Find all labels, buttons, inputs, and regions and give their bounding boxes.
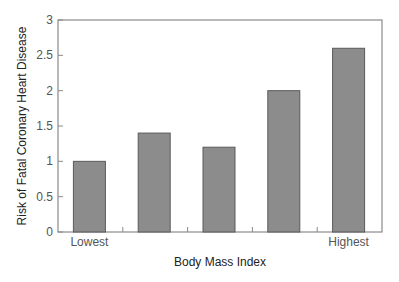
bar <box>138 133 170 232</box>
bar <box>268 91 300 232</box>
bar <box>203 147 235 232</box>
y-tick-label: 2 <box>46 84 53 98</box>
x-category-label: Highest <box>328 235 369 249</box>
y-axis-title: Risk of Fatal Coronary Heart Disease <box>15 26 29 225</box>
bar-chart: 00.511.522.53 LowestHighest Risk of Fata… <box>0 0 399 282</box>
bar <box>73 161 105 232</box>
y-tick-label: 0 <box>46 225 53 239</box>
y-tick-label: 1 <box>46 154 53 168</box>
y-tick-label: 3 <box>46 13 53 27</box>
x-axis-title: Body Mass Index <box>174 255 266 269</box>
y-tick-label: 2.5 <box>36 48 53 62</box>
bars <box>73 48 364 232</box>
bar <box>333 48 365 232</box>
y-tick-label: 1.5 <box>36 119 53 133</box>
y-tick-label: 0.5 <box>36 190 53 204</box>
x-category-label: Lowest <box>70 235 109 249</box>
y-axis: 00.511.522.53 <box>36 13 63 239</box>
